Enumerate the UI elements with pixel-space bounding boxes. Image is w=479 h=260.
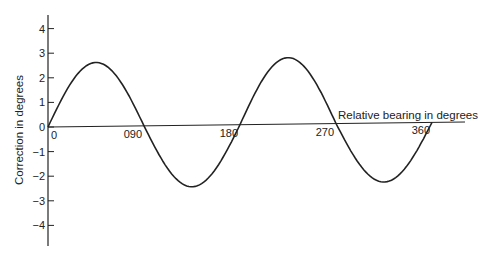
y-tick-label: −1 <box>32 146 45 158</box>
y-ticks: 43210−1−2−3−4 <box>32 23 54 232</box>
y-tick-label: −3 <box>32 195 45 207</box>
chart-canvas: 43210−1−2−3−4 0090180270360 Relative bea… <box>0 0 479 260</box>
x-axis-line <box>48 122 465 127</box>
y-tick-label: 3 <box>39 47 45 59</box>
x-ticks: 0090180270360 <box>51 124 430 141</box>
x-axis-title: Relative bearing in degrees <box>338 109 478 121</box>
y-tick-label: −4 <box>32 219 45 231</box>
y-tick-label: 4 <box>39 23 45 35</box>
correction-curve <box>48 58 432 187</box>
x-tick-label: 270 <box>316 126 334 138</box>
x-tick-label: 090 <box>124 128 142 140</box>
y-tick-label: −2 <box>32 170 45 182</box>
y-axis-title: Correction in degrees <box>13 75 25 185</box>
y-tick-label: 0 <box>39 121 45 133</box>
x-tick-label: 0 <box>51 129 57 141</box>
y-tick-label: 1 <box>39 96 45 108</box>
y-tick-label: 2 <box>39 72 45 84</box>
